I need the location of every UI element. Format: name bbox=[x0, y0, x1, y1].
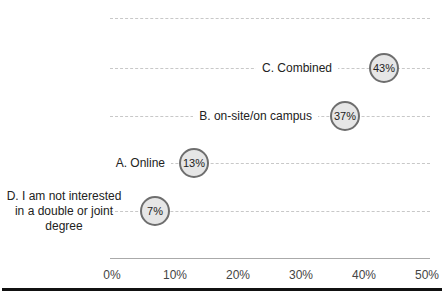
label-onsite: B. on-site/on campus bbox=[193, 109, 318, 124]
x-tick: 40% bbox=[352, 268, 376, 282]
x-tick: 30% bbox=[289, 268, 313, 282]
x-tick: 20% bbox=[226, 268, 250, 282]
gridline bbox=[110, 18, 430, 19]
x-axis-line bbox=[110, 258, 430, 259]
label-combined: C. Combined bbox=[256, 61, 338, 76]
label-not-interested: D. I am not interested in a double or jo… bbox=[4, 189, 124, 234]
label-line: degree bbox=[4, 219, 124, 234]
label-line: in a double or joint bbox=[4, 204, 124, 219]
divider bbox=[2, 288, 442, 291]
x-tick: 50% bbox=[415, 268, 439, 282]
point-not-interested: 7% bbox=[140, 196, 170, 226]
x-tick: 0% bbox=[103, 268, 120, 282]
point-combined: 43% bbox=[369, 53, 399, 83]
label-line: D. I am not interested bbox=[4, 189, 124, 204]
point-onsite: 37% bbox=[330, 101, 360, 131]
label-online: A. Online bbox=[110, 156, 171, 171]
point-online: 13% bbox=[179, 148, 209, 178]
x-tick: 10% bbox=[163, 268, 187, 282]
